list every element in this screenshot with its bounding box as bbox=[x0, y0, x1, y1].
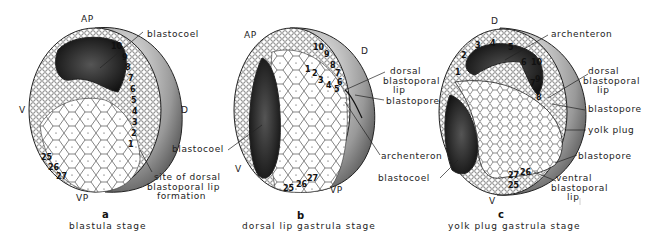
label-blastoporal: blastoporal bbox=[583, 76, 640, 86]
svg-text:2: 2 bbox=[131, 129, 137, 138]
svg-text:5: 5 bbox=[508, 43, 514, 52]
label-blastocoel: blastocoel bbox=[147, 29, 199, 39]
axis-vp: VP bbox=[76, 193, 89, 203]
label-lip-2: lip bbox=[567, 192, 580, 202]
svg-text:1: 1 bbox=[455, 68, 461, 77]
svg-text:1: 1 bbox=[305, 65, 311, 74]
svg-text:5: 5 bbox=[334, 85, 340, 94]
caption-a: blastula stage bbox=[69, 221, 147, 231]
axis-d: D bbox=[491, 16, 499, 26]
svg-text:4: 4 bbox=[132, 107, 138, 116]
label-lip: lip bbox=[393, 85, 406, 95]
label-archenteron: archenteron bbox=[551, 29, 612, 39]
svg-text:8: 8 bbox=[536, 93, 542, 102]
label-blastopore-ventral: blastopore bbox=[578, 151, 632, 161]
label-yolk-plug: yolk plug bbox=[588, 125, 634, 135]
axis-v: V bbox=[489, 196, 496, 206]
svg-text:4: 4 bbox=[326, 81, 332, 90]
svg-text:25: 25 bbox=[508, 181, 520, 190]
label-archenteron: archenteron bbox=[381, 151, 442, 161]
svg-text:6: 6 bbox=[521, 58, 527, 67]
svg-text:6: 6 bbox=[130, 85, 136, 94]
svg-text:9: 9 bbox=[122, 53, 128, 62]
panel-letter-b: b bbox=[297, 210, 304, 221]
embryo-diagram: AP VP V D blastocoel site of dorsal blas… bbox=[0, 0, 648, 244]
label-blastoporal: blastoporal bbox=[383, 76, 440, 86]
label-site-1: site of dorsal bbox=[154, 172, 221, 182]
axis-d: D bbox=[181, 105, 189, 115]
label-dorsal: dorsal bbox=[588, 66, 619, 76]
svg-text:26: 26 bbox=[296, 180, 308, 189]
svg-text:25: 25 bbox=[283, 184, 295, 193]
svg-text:10: 10 bbox=[111, 42, 123, 51]
svg-text:3: 3 bbox=[318, 76, 324, 85]
label-site-3: formation bbox=[157, 191, 206, 201]
axis-vp: VP bbox=[330, 185, 343, 195]
label-ventral: ventral bbox=[556, 173, 592, 183]
svg-text:7: 7 bbox=[335, 69, 341, 78]
axis-d: D bbox=[361, 46, 369, 56]
axis-v: V bbox=[19, 105, 26, 115]
label-lip: lip bbox=[597, 85, 610, 95]
caption-c: yolk plug gastrula stage bbox=[448, 221, 581, 231]
label-blastopore-dorsal: blastopore bbox=[588, 104, 642, 114]
caption-b: dorsal lip gastrula stage bbox=[242, 221, 376, 231]
label-blastopore: blastopore bbox=[386, 96, 440, 106]
label-dorsal: dorsal bbox=[390, 66, 421, 76]
svg-text:26: 26 bbox=[520, 168, 532, 177]
svg-text:3: 3 bbox=[132, 118, 138, 127]
svg-text:9: 9 bbox=[324, 50, 330, 59]
svg-text:10: 10 bbox=[313, 43, 325, 52]
svg-text:7: 7 bbox=[530, 79, 536, 88]
svg-text:3: 3 bbox=[475, 41, 481, 50]
svg-text:5: 5 bbox=[131, 96, 137, 105]
axis-ap: AP bbox=[81, 14, 94, 24]
panel-letter-c: c bbox=[498, 209, 504, 220]
svg-text:26: 26 bbox=[48, 163, 60, 172]
svg-text:8: 8 bbox=[125, 63, 131, 72]
svg-text:2: 2 bbox=[312, 69, 318, 78]
axis-v: V bbox=[235, 164, 242, 174]
svg-text:27: 27 bbox=[307, 174, 318, 183]
svg-text:27: 27 bbox=[508, 171, 519, 180]
svg-text:7: 7 bbox=[128, 74, 134, 83]
svg-text:9: 9 bbox=[535, 75, 541, 84]
svg-text:1: 1 bbox=[128, 140, 134, 149]
label-blastocoel: blastocoel bbox=[172, 144, 224, 154]
svg-text:4: 4 bbox=[490, 39, 496, 48]
panel-letter-a: a bbox=[102, 209, 109, 220]
label-blastocoel: blastocoel bbox=[378, 173, 430, 183]
svg-text:10: 10 bbox=[531, 58, 543, 67]
svg-text:25: 25 bbox=[41, 153, 53, 162]
axis-ap: AP bbox=[244, 30, 257, 40]
svg-text:2: 2 bbox=[461, 51, 467, 60]
svg-text:27: 27 bbox=[56, 172, 67, 181]
